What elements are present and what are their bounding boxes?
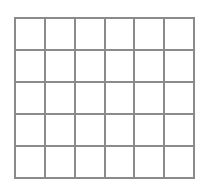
grid-cell-r5-c6 [163,145,193,177]
empty-grid [14,17,195,179]
grid-cell-r5-c5 [133,145,163,177]
grid-cell-r5-c3 [74,145,104,177]
grid-cell-r4-c2 [44,113,74,145]
grid-cell-r1-c2 [44,17,74,49]
grid-cell-r5-c4 [104,145,134,177]
grid-cell-r3-c5 [133,81,163,113]
grid-cell-r1-c1 [14,17,44,49]
grid-cell-r2-c3 [74,49,104,81]
grid-cell-r4-c5 [133,113,163,145]
grid-cell-r2-c4 [104,49,134,81]
grid-cell-r3-c6 [163,81,193,113]
grid-cell-r3-c3 [74,81,104,113]
grid-cell-r4-c6 [163,113,193,145]
grid-cell-r4-c1 [14,113,44,145]
grid-cell-r3-c4 [104,81,134,113]
grid-cell-r2-c1 [14,49,44,81]
grid-cell-r1-c5 [133,17,163,49]
grid-cell-r2-c6 [163,49,193,81]
grid-cell-r1-c4 [104,17,134,49]
grid-cell-r1-c6 [163,17,193,49]
grid-cell-r5-c2 [44,145,74,177]
grid-cell-r3-c2 [44,81,74,113]
grid-cell-r5-c1 [14,145,44,177]
grid-cell-r1-c3 [74,17,104,49]
grid-cell-r4-c4 [104,113,134,145]
grid-cell-r3-c1 [14,81,44,113]
grid-cell-r2-c2 [44,49,74,81]
grid-cell-r2-c5 [133,49,163,81]
grid-cell-r4-c3 [74,113,104,145]
